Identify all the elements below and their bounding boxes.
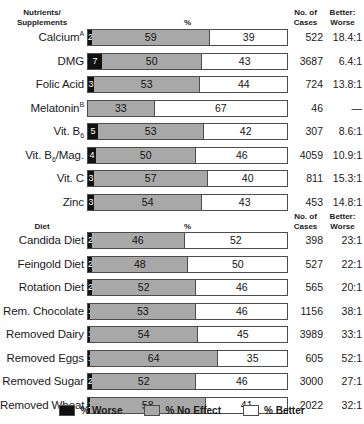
row-label: Vit. C bbox=[0, 170, 84, 187]
column-header-cases-nutrients: No. of Cases bbox=[288, 8, 323, 28]
bar-segment-better: 39 bbox=[209, 30, 287, 45]
cases-value: 724 bbox=[292, 76, 323, 93]
bar-segment-no-effect: 53 bbox=[94, 77, 199, 92]
bar-segment-better: 42 bbox=[203, 124, 287, 139]
cases-value: 527 bbox=[292, 256, 323, 273]
cases-value: 565 bbox=[292, 279, 323, 296]
ratio-value: — bbox=[325, 100, 362, 117]
row-label: Feingold Diet bbox=[0, 256, 84, 273]
chart-row: DMG7504336876.4:1 bbox=[0, 53, 364, 70]
ratio-header-diet-line1: Better: bbox=[330, 212, 356, 221]
bar-segment-better: 35 bbox=[217, 351, 287, 366]
bar-segment-no-effect: 53 bbox=[98, 124, 203, 139]
bar-segment-better: 43 bbox=[201, 54, 287, 69]
ratio-value: 27:1 bbox=[325, 373, 362, 390]
chart-legend: % Worse % No Effect % Better bbox=[0, 402, 364, 418]
bar-segment-better: 46 bbox=[195, 304, 287, 319]
ratio-value: 6.4:1 bbox=[325, 53, 362, 70]
stacked-bar: 75043 bbox=[87, 53, 288, 70]
bar-segment-worse: 4 bbox=[88, 148, 96, 163]
cases-header-line1: No. of bbox=[294, 8, 317, 17]
bar-segment-no-effect: 48 bbox=[92, 257, 188, 272]
bar-segment-better: 67 bbox=[154, 101, 287, 116]
section-header-diet: Diet % No. of Cases Better: Worse bbox=[0, 212, 364, 234]
section-header-nutrients: Nutrients/ Supplements % No. of Cases Be… bbox=[0, 8, 364, 30]
stacked-bar: 35443 bbox=[87, 194, 288, 211]
cases-value: 398 bbox=[292, 232, 323, 249]
cases-value: 3687 bbox=[292, 53, 323, 70]
cases-value: 522 bbox=[292, 29, 323, 46]
cases-value: 453 bbox=[292, 194, 323, 211]
chart-row: Removed Sugar25246300027:1 bbox=[0, 373, 364, 390]
cases-header-diet-line2: Cases bbox=[294, 222, 318, 231]
legend-label-better: % Better bbox=[264, 405, 305, 416]
ratio-header-line2: Worse bbox=[330, 18, 354, 27]
bar-segment-better: 44 bbox=[199, 77, 287, 92]
column-header-ratio-nutrients: Better: Worse bbox=[323, 8, 362, 28]
bar-segment-better: 52 bbox=[184, 233, 288, 248]
column-header-category-nutrients: Nutrients/ Supplements bbox=[0, 8, 84, 28]
ratio-value: 23:1 bbox=[325, 232, 362, 249]
bar-segment-better: 40 bbox=[207, 171, 287, 186]
bar-segment-no-effect: 54 bbox=[90, 327, 197, 342]
bar-segment-no-effect: 52 bbox=[92, 374, 195, 389]
column-header-percent-diet: % bbox=[87, 222, 288, 232]
bar-segment-no-effect: 64 bbox=[90, 351, 217, 366]
chart-row: Rotation Diet2524656520:1 bbox=[0, 279, 364, 296]
row-label: Candida Diet bbox=[0, 232, 84, 249]
chart-row: CalciumA2593952218.4:1 bbox=[0, 29, 364, 46]
bar-segment-no-effect: 59 bbox=[92, 30, 209, 45]
row-label: Removed Sugar bbox=[0, 373, 84, 390]
legend-item-worse: % Worse bbox=[59, 405, 122, 416]
legend-swatch-better-icon bbox=[243, 405, 259, 416]
stacked-bar: 24652 bbox=[87, 232, 288, 249]
bar-segment-no-effect: 52 bbox=[92, 280, 195, 295]
bar-segment-no-effect: 54 bbox=[94, 195, 201, 210]
row-label: MelatoninB bbox=[0, 100, 84, 117]
column-header-cases-diet: No. of Cases bbox=[288, 212, 323, 232]
stacked-bar: 15445 bbox=[87, 326, 288, 343]
legend-swatch-worse-icon bbox=[59, 405, 75, 416]
cases-value: 307 bbox=[292, 123, 323, 140]
legend-swatch-no-effect-icon bbox=[144, 405, 160, 416]
stacked-bar: 35344 bbox=[87, 76, 288, 93]
cases-value: 605 bbox=[292, 350, 323, 367]
column-header-category-diet: Diet bbox=[0, 222, 84, 232]
ratio-value: 10.9:1 bbox=[325, 147, 362, 164]
stacked-bar-chart: Nutrients/ Supplements % No. of Cases Be… bbox=[0, 0, 364, 424]
bar-segment-no-effect: 53 bbox=[90, 304, 195, 319]
bar-segment-better: 46 bbox=[195, 374, 287, 389]
cases-header-line2: Cases bbox=[294, 18, 318, 27]
stacked-bar: 25939 bbox=[87, 29, 288, 46]
legend-label-worse: % Worse bbox=[80, 405, 122, 416]
row-label: Zinc bbox=[0, 194, 84, 211]
bar-segment-worse: 5 bbox=[88, 124, 98, 139]
category-header-line2: Supplements bbox=[17, 18, 67, 27]
row-label: Vit. B6/Mag. bbox=[0, 147, 84, 164]
bar-segment-no-effect: 46 bbox=[92, 233, 184, 248]
ratio-value: 14.8:1 bbox=[325, 194, 362, 211]
ratio-value: 18.4:1 bbox=[325, 29, 362, 46]
ratio-header-line1: Better: bbox=[330, 8, 356, 17]
chart-row: Vit. B6/Mag.45046405910.9:1 bbox=[0, 147, 364, 164]
row-label: Vit. B6 bbox=[0, 123, 84, 140]
stacked-bar: 45046 bbox=[87, 147, 288, 164]
row-label: Rem. Chocolate bbox=[0, 303, 84, 320]
stacked-bar: 25246 bbox=[87, 373, 288, 390]
bar-segment-no-effect: 33 bbox=[88, 101, 154, 116]
chart-row: Feingold Diet2485052722:1 bbox=[0, 256, 364, 273]
legend-label-no-effect: % No Effect bbox=[165, 405, 221, 416]
bar-segment-no-effect: 50 bbox=[96, 148, 196, 163]
legend-item-better: % Better bbox=[243, 405, 305, 416]
stacked-bar: 55342 bbox=[87, 123, 288, 140]
chart-row: Vit. C3574081115.3:1 bbox=[0, 170, 364, 187]
stacked-bar: 3367 bbox=[87, 100, 288, 117]
category-header-diet-line1: Diet bbox=[34, 222, 49, 231]
cases-value: 4059 bbox=[292, 147, 323, 164]
bar-segment-no-effect: 57 bbox=[94, 171, 207, 186]
ratio-value: 8.6:1 bbox=[325, 123, 362, 140]
cases-value: 811 bbox=[292, 170, 323, 187]
ratio-value: 38:1 bbox=[325, 303, 362, 320]
bar-segment-worse: 7 bbox=[88, 54, 102, 69]
ratio-value: 52:1 bbox=[325, 350, 362, 367]
